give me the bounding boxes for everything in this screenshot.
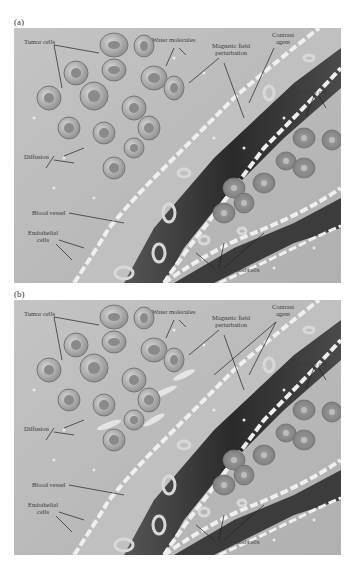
panel-a-illustration	[14, 28, 341, 283]
label-water-molecules: Water molecules	[152, 308, 195, 315]
label-diffusion: Diffusion	[24, 425, 49, 432]
label-normal-cells: Normal cells	[297, 360, 330, 367]
label-endothelial-cells: Endothelial cells	[28, 229, 58, 243]
panel-b-label: (b)	[14, 289, 25, 299]
label-water-molecules: Water molecules	[152, 36, 195, 43]
label-magnetic-field: Magnetic field perturbation	[212, 314, 250, 328]
label-tumor-cells: Tumor cells	[24, 38, 55, 45]
label-magnetic-field: Magnetic field perturbation	[212, 42, 250, 56]
panel-b: Tumor cells Water molecules Magnetic fie…	[14, 300, 341, 555]
label-red-blood-cells: Red blood cells	[219, 266, 259, 273]
label-blood-vessel: Blood vessel	[32, 209, 65, 216]
label-diffusion: Diffusion	[24, 153, 49, 160]
label-normal-cells: Normal cells	[297, 88, 330, 95]
label-endothelial-cells: Endothelial cells	[28, 501, 58, 515]
label-contrast-agent: Contrast agent	[272, 303, 294, 317]
label-contrast-agent: Contrast agent	[272, 31, 294, 45]
panel-a: Tumor cells Water molecules Magnetic fie…	[14, 28, 341, 283]
panel-b-illustration	[14, 300, 341, 555]
label-red-blood-cells: Red blood cells	[219, 538, 259, 545]
label-blood-vessel: Blood vessel	[32, 481, 65, 488]
panel-a-label: (a)	[14, 17, 24, 27]
label-tumor-cells: Tumor cells	[24, 310, 55, 317]
